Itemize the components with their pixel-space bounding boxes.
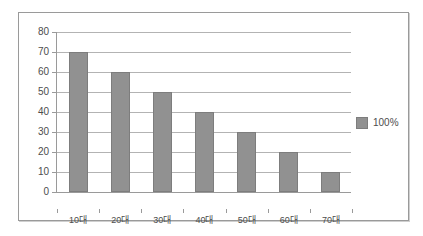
x-axis-labels: 10대20대30대40대50대60대70대 [57,209,352,227]
x-axis-slot: 10대 [57,209,99,227]
bar-slot [99,32,141,192]
bar-30대[interactable] [153,92,172,192]
y-axis-tick-20 [52,152,56,153]
x-axis-tick [310,209,311,213]
x-axis-tick-label: 30대 [153,215,171,225]
x-axis-tick [141,209,142,213]
y-axis-tick-0 [52,192,56,193]
x-axis-slot: 40대 [183,209,225,227]
gridline-0 [56,192,351,193]
x-axis-slot: 20대 [99,209,141,227]
y-axis-tick-label: 80 [38,27,49,37]
bar-slot [267,32,309,192]
y-axis-tick-label: 70 [38,47,49,57]
x-axis-tick-label: 40대 [195,215,213,225]
legend-swatch-icon [356,117,368,129]
y-axis-tick-60 [52,72,56,73]
chart-legend: 100% [356,117,399,129]
y-axis-tick-80 [52,32,56,33]
y-axis-tick-label: 30 [38,127,49,137]
plot-area: 80706050403020100 [56,32,351,192]
bar-60대[interactable] [279,152,298,192]
y-axis-tick-label: 50 [38,87,49,97]
x-axis-slot: 60대 [268,209,310,227]
y-axis-tick-label: 10 [38,167,49,177]
bar-70대[interactable] [321,172,340,192]
x-axis-tick-label: 50대 [238,215,256,225]
bar-slot [141,32,183,192]
x-axis-slot: 50대 [226,209,268,227]
y-axis-tick-label: 0 [43,187,49,197]
bar-50대[interactable] [237,132,256,192]
x-axis-tick [57,209,58,213]
y-axis-tick-70 [52,52,56,53]
bar-10대[interactable] [69,52,88,192]
y-axis-tick-40 [52,112,56,113]
x-axis-tick [99,209,100,213]
bar-40대[interactable] [195,112,214,192]
x-axis-tick-label: 10대 [69,215,87,225]
x-axis-tick [183,209,184,213]
x-axis-tick-label: 70대 [322,215,340,225]
x-axis-tick-label: 20대 [111,215,129,225]
x-axis-slot: 70대 [310,209,352,227]
chart-frame: 80706050403020100 10대20대30대40대50대60대70대 … [18,12,409,221]
bar-slot [57,32,99,192]
bars-layer [57,32,351,192]
y-axis-tick-10 [52,172,56,173]
y-axis-tick-30 [52,132,56,133]
bar-20대[interactable] [111,72,130,192]
y-axis-tick-label: 20 [38,147,49,157]
y-axis-tick-label: 60 [38,67,49,77]
x-axis-tick-label: 60대 [280,215,298,225]
x-axis-tick [226,209,227,213]
bar-slot [225,32,267,192]
bar-slot [309,32,351,192]
x-axis-slot: 30대 [141,209,183,227]
y-axis-tick-label: 40 [38,107,49,117]
x-axis-tick [352,209,353,213]
y-axis-tick-50 [52,92,56,93]
bar-slot [183,32,225,192]
x-axis-tick [268,209,269,213]
legend-label: 100% [373,118,399,128]
